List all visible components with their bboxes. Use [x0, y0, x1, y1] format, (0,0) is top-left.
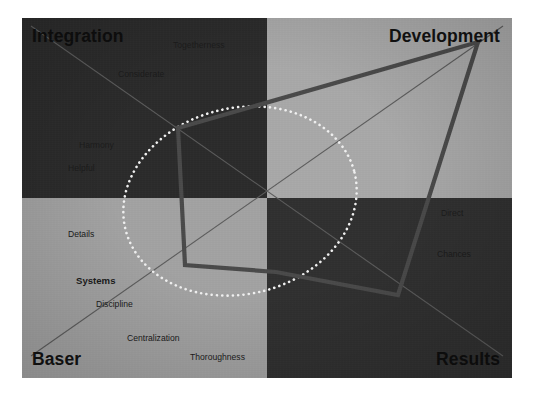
quadrant-label-development: Development: [389, 28, 500, 46]
trait-label: Details: [68, 230, 94, 239]
trait-label: Centralization: [127, 334, 180, 343]
chart-canvas: Integration Development Baser Results To…: [0, 0, 535, 402]
trait-label: Togetherness: [173, 41, 225, 50]
quadrant-label-baser: Baser: [32, 351, 81, 369]
profile-polygon-shape: [178, 42, 478, 295]
quadrant-label-integration: Integration: [32, 28, 124, 46]
trait-label: Chances: [437, 250, 471, 259]
trait-label: Systems: [76, 276, 115, 286]
trait-label: Helpful: [68, 164, 95, 173]
trait-label: Harmony: [79, 141, 114, 150]
chart-vector-overlay: [22, 18, 512, 378]
quadrant-plate: Integration Development Baser Results To…: [22, 18, 512, 378]
trait-label: Direct: [441, 209, 463, 218]
trait-label: Thoroughness: [190, 353, 245, 362]
profile-polygon: [178, 42, 478, 295]
trait-label: Discipline: [96, 300, 133, 309]
trait-label: Considerate: [118, 70, 164, 79]
quadrant-label-results: Results: [436, 351, 500, 369]
